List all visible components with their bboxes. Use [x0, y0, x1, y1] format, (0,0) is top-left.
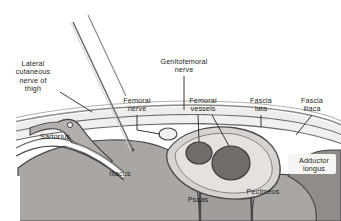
- label-fascia-lata: Fascia lata: [241, 97, 281, 114]
- femoral-vein-vessel: [186, 142, 212, 164]
- femoral-nerve-block-illustration: Lateral cutaneous nerve: [0, 0, 341, 221]
- femoral-nerve-bundle: [159, 128, 177, 140]
- needle-tip: [132, 149, 135, 152]
- label-lateral-cutaneous-nerve-of-thigh: Lateral cutaneous nerve of thigh: [6, 60, 60, 94]
- bottom-left-mask: [0, 176, 20, 221]
- label-genitofemoral-nerve: Genitofemoral nerve: [148, 58, 220, 75]
- superficial-vessel-marker: [67, 122, 72, 127]
- label-sartorius: Sartorius: [33, 133, 77, 141]
- label-pectineus: Pectineus: [240, 188, 286, 196]
- label-iliacus: Iliacus: [103, 170, 137, 178]
- label-adductor-longus: Adductor longus: [291, 157, 337, 174]
- femoral-artery-vessel: [212, 146, 250, 180]
- label-psoas: Psoas: [182, 196, 214, 204]
- label-femoral-vessels: Femoral vessels: [180, 97, 226, 114]
- anatomy-artwork: [0, 0, 341, 221]
- label-fascia-iliaca: Fascia iliaca: [292, 97, 332, 114]
- label-femoral-nerve: Femoral nerve: [114, 97, 160, 114]
